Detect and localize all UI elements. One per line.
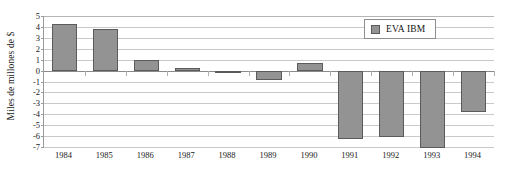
- y-axis-tick-label: -5: [33, 120, 40, 130]
- y-axis-tick-label: 3: [36, 33, 40, 43]
- y-tick-mark: [41, 38, 44, 39]
- y-axis-tick-label: -2: [33, 87, 40, 97]
- y-tick-mark: [41, 82, 44, 83]
- y-tick-mark: [41, 103, 44, 104]
- bar-1985: [93, 29, 118, 71]
- bar-1994: [461, 71, 486, 112]
- x-axis-tick-label-1994: 1994: [464, 150, 481, 160]
- y-tick-mark: [41, 27, 44, 28]
- x-axis-tick-label-1988: 1988: [219, 150, 236, 160]
- bar-1987: [175, 68, 200, 71]
- chart-container: Miles de millones de $ 543210-1-2-3-4-5-…: [0, 0, 511, 173]
- category-tick: [330, 71, 331, 76]
- y-axis-tick-label: 4: [36, 22, 40, 32]
- category-tick: [494, 71, 495, 76]
- bar-1984: [52, 24, 77, 71]
- bar-1986: [134, 60, 159, 71]
- category-tick: [208, 71, 209, 76]
- x-axis-tick-label-1992: 1992: [382, 150, 399, 160]
- y-axis-tick-label: 0: [36, 66, 40, 76]
- y-axis-tick-label: -3: [33, 98, 40, 108]
- y-axis-tick-label: -1: [33, 77, 40, 87]
- category-tick: [412, 71, 413, 76]
- y-tick-mark: [41, 16, 44, 17]
- bar-1989: [256, 71, 281, 80]
- legend-label-eva-ibm: EVA IBM: [386, 24, 426, 34]
- category-tick: [167, 71, 168, 76]
- y-tick-mark: [41, 136, 44, 137]
- category-tick: [126, 71, 127, 76]
- y-axis-tick-label: 2: [36, 44, 40, 54]
- category-tick: [453, 71, 454, 76]
- y-tick-mark: [41, 49, 44, 50]
- category-tick: [249, 71, 250, 76]
- y-tick-mark: [41, 60, 44, 61]
- y-axis-tick-labels: 543210-1-2-3-4-5-6-7: [22, 16, 42, 147]
- x-axis-tick-labels: 1984198519861987198819891990199119921993…: [43, 150, 493, 168]
- y-axis-tick-label: 5: [36, 11, 40, 21]
- category-tick: [371, 71, 372, 76]
- y-tick-mark: [41, 147, 44, 148]
- y-axis-tick-label: -4: [33, 109, 40, 119]
- x-axis-tick-label-1985: 1985: [96, 150, 113, 160]
- x-axis-tick-label-1986: 1986: [137, 150, 154, 160]
- bar-1990: [297, 63, 322, 70]
- legend-swatch-eva-ibm: [371, 25, 380, 34]
- y-tick-mark: [41, 92, 44, 93]
- category-tick: [85, 71, 86, 76]
- x-axis-tick-label-1984: 1984: [55, 150, 72, 160]
- category-tick: [289, 71, 290, 76]
- y-axis-tick-label: -7: [33, 142, 40, 152]
- y-axis-tick-label: 1: [36, 55, 40, 65]
- bar-1992: [379, 71, 404, 138]
- y-tick-mark: [41, 114, 44, 115]
- x-axis-tick-label-1989: 1989: [260, 150, 277, 160]
- bar-1988: [215, 71, 240, 73]
- chart-legend: EVA IBM: [364, 19, 436, 39]
- x-axis-tick-label-1993: 1993: [423, 150, 440, 160]
- gridline-5: [44, 16, 494, 17]
- y-axis-title-text: Miles de millones de $: [6, 32, 16, 121]
- x-axis-tick-label-1991: 1991: [341, 150, 358, 160]
- x-axis-tick-label-1987: 1987: [178, 150, 195, 160]
- y-tick-mark: [41, 125, 44, 126]
- x-axis-tick-label-1990: 1990: [300, 150, 317, 160]
- bar-1991: [338, 71, 363, 140]
- y-axis-tick-label: -6: [33, 131, 40, 141]
- y-axis-title: Miles de millones de $: [0, 0, 22, 152]
- y-tick-mark: [41, 71, 44, 72]
- bar-1993: [420, 71, 445, 149]
